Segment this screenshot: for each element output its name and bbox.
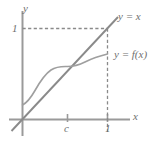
y-tick-label-one: 1 bbox=[12, 23, 18, 34]
figure-fixed-point-graph: y x 1 c 1 y = x y = f(x) bbox=[0, 0, 154, 142]
function-curve-label: y = f(x) bbox=[114, 49, 147, 60]
y-axis-label: y bbox=[23, 3, 28, 14]
x-tick-label-one: 1 bbox=[105, 123, 111, 134]
x-axis-label: x bbox=[133, 111, 138, 122]
identity-line-label: y = x bbox=[118, 11, 141, 22]
x-tick-label-c: c bbox=[64, 123, 69, 134]
identity-line bbox=[12, 17, 119, 131]
function-curve bbox=[23, 54, 108, 105]
